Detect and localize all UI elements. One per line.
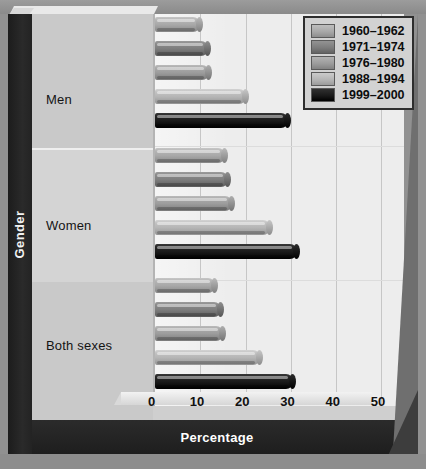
legend-item[interactable]: 1988–1994 (311, 71, 405, 87)
legend-item[interactable]: 1971–1974 (311, 39, 405, 55)
legend-label: 1960–1962 (342, 24, 405, 38)
y-axis-title: Gender (8, 14, 32, 454)
legend-swatch (311, 88, 335, 102)
chart-figure: Men Women Both sexes 01020304050 Percent… (0, 0, 426, 469)
legend-label: 1971–1974 (342, 40, 405, 54)
x-tick-label-20: 20 (235, 394, 249, 409)
legend-item[interactable]: 1976–1980 (311, 55, 405, 71)
legend-label: 1999–2000 (342, 88, 405, 102)
x-tick-label-50: 50 (371, 394, 385, 409)
legend-item[interactable]: 1999–2000 (311, 87, 405, 103)
x-tick-label-40: 40 (326, 394, 340, 409)
x-tick-label-10: 10 (190, 394, 204, 409)
chart-legend: 1960–19621971–19741976–19801988–19941999… (303, 16, 414, 110)
x-axis-title: Percentage (32, 424, 402, 450)
legend-swatch (311, 40, 335, 54)
legend-swatch (311, 72, 335, 86)
y-axis-title-text: Gender (13, 210, 28, 258)
legend-label: 1988–1994 (342, 72, 405, 86)
legend-item[interactable]: 1960–1962 (311, 23, 405, 39)
legend-swatch (311, 24, 335, 38)
x-tick-label-0: 0 (148, 394, 155, 409)
x-tick-label-30: 30 (280, 394, 294, 409)
legend-label: 1976–1980 (342, 56, 405, 70)
frame-bottom-strip (0, 454, 426, 469)
legend-swatch (311, 56, 335, 70)
